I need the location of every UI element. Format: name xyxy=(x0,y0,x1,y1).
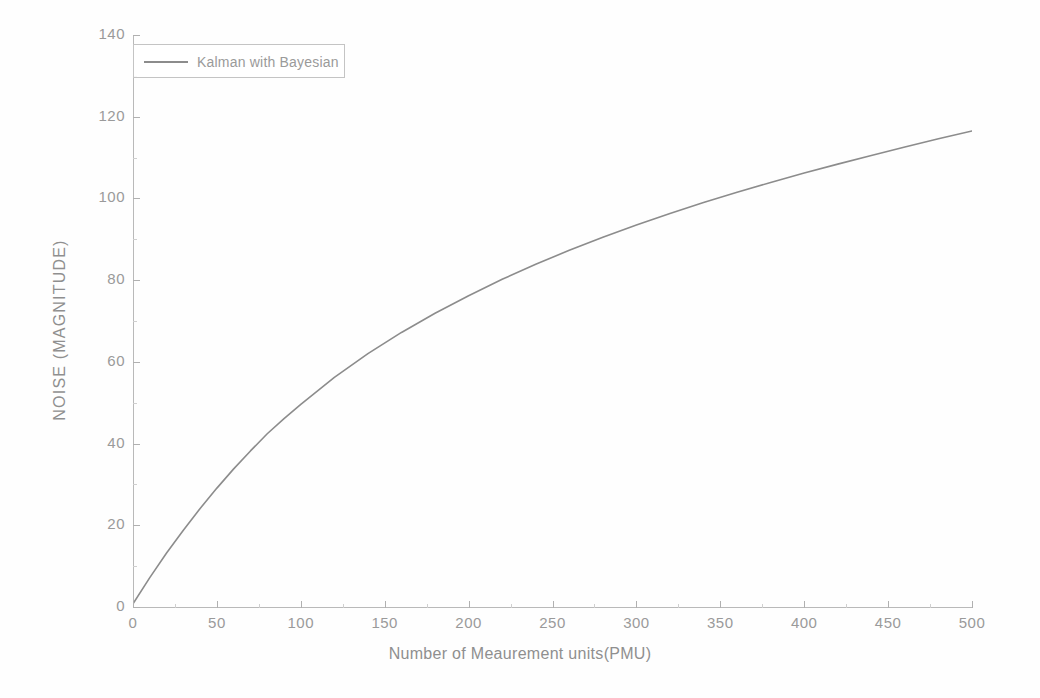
x-axis-tick-label: 450 xyxy=(858,614,918,631)
y-axis-minor-tick xyxy=(133,321,137,322)
y-axis-title: NOISE (MAGNITUDE) xyxy=(51,80,69,580)
x-axis-tick-label: 150 xyxy=(355,614,415,631)
y-axis-minor-tick xyxy=(133,158,137,159)
x-axis-tick xyxy=(972,601,973,608)
x-axis-minor-tick xyxy=(762,604,763,608)
y-axis-tick xyxy=(133,35,140,36)
x-axis-tick xyxy=(636,601,637,608)
x-axis-minor-tick xyxy=(678,604,679,608)
y-axis-tick-label: 140 xyxy=(65,25,125,42)
x-axis-tick xyxy=(804,601,805,608)
y-axis-minor-tick xyxy=(133,484,137,485)
chart-figure: 0204060801001201400501001502002503003504… xyxy=(0,0,1040,698)
y-axis-tick xyxy=(133,280,140,281)
x-axis-minor-tick xyxy=(343,604,344,608)
y-axis-tick xyxy=(133,444,140,445)
y-axis-tick-label: 80 xyxy=(65,270,125,287)
y-axis-tick xyxy=(133,362,140,363)
legend-box: Kalman with Bayesian xyxy=(133,44,345,78)
y-axis-tick xyxy=(133,525,140,526)
x-axis-tick xyxy=(469,601,470,608)
x-axis-tick-label: 200 xyxy=(439,614,499,631)
y-axis-tick xyxy=(133,198,140,199)
x-axis-minor-tick xyxy=(594,604,595,608)
y-axis-tick-label: 120 xyxy=(65,107,125,124)
plot-area xyxy=(133,35,972,607)
y-axis-minor-tick xyxy=(133,239,137,240)
series-line-kalman-with-bayesian xyxy=(133,131,972,604)
x-axis-tick-label: 250 xyxy=(523,614,583,631)
y-axis-tick-label: 60 xyxy=(65,352,125,369)
y-axis-minor-tick xyxy=(133,403,137,404)
x-axis-tick-label: 500 xyxy=(942,614,1002,631)
x-axis-title: Number of Meaurement units(PMU) xyxy=(0,645,1040,663)
x-axis-minor-tick xyxy=(427,604,428,608)
y-axis-tick-label: 40 xyxy=(65,434,125,451)
x-axis-minor-tick xyxy=(259,604,260,608)
x-axis-tick xyxy=(888,601,889,608)
x-axis-tick-label: 100 xyxy=(271,614,331,631)
y-axis-minor-tick xyxy=(133,566,137,567)
x-axis-tick xyxy=(217,601,218,608)
legend-entry-kalman-with-bayesian: Kalman with Bayesian xyxy=(134,45,346,79)
x-axis-tick xyxy=(133,601,134,608)
x-axis-tick-label: 50 xyxy=(187,614,247,631)
legend-entry-label: Kalman with Bayesian xyxy=(197,54,339,70)
x-axis-tick-label: 350 xyxy=(690,614,750,631)
x-axis-minor-tick xyxy=(175,604,176,608)
x-axis-tick xyxy=(720,601,721,608)
y-axis-tick-label: 100 xyxy=(65,188,125,205)
x-axis-tick xyxy=(553,601,554,608)
y-axis-tick xyxy=(133,117,140,118)
y-axis-tick-label: 20 xyxy=(65,515,125,532)
x-axis-tick-label: 0 xyxy=(103,614,163,631)
legend-line-swatch-icon xyxy=(144,61,188,63)
x-axis-minor-tick xyxy=(511,604,512,608)
x-axis-minor-tick xyxy=(846,604,847,608)
x-axis-tick-label: 400 xyxy=(774,614,834,631)
x-axis-minor-tick xyxy=(930,604,931,608)
x-axis-tick-label: 300 xyxy=(606,614,666,631)
y-axis-tick-label: 0 xyxy=(65,597,125,614)
line-chart-svg xyxy=(133,35,972,607)
x-axis-tick xyxy=(385,601,386,608)
x-axis-tick xyxy=(301,601,302,608)
y-axis-tick xyxy=(133,607,140,608)
